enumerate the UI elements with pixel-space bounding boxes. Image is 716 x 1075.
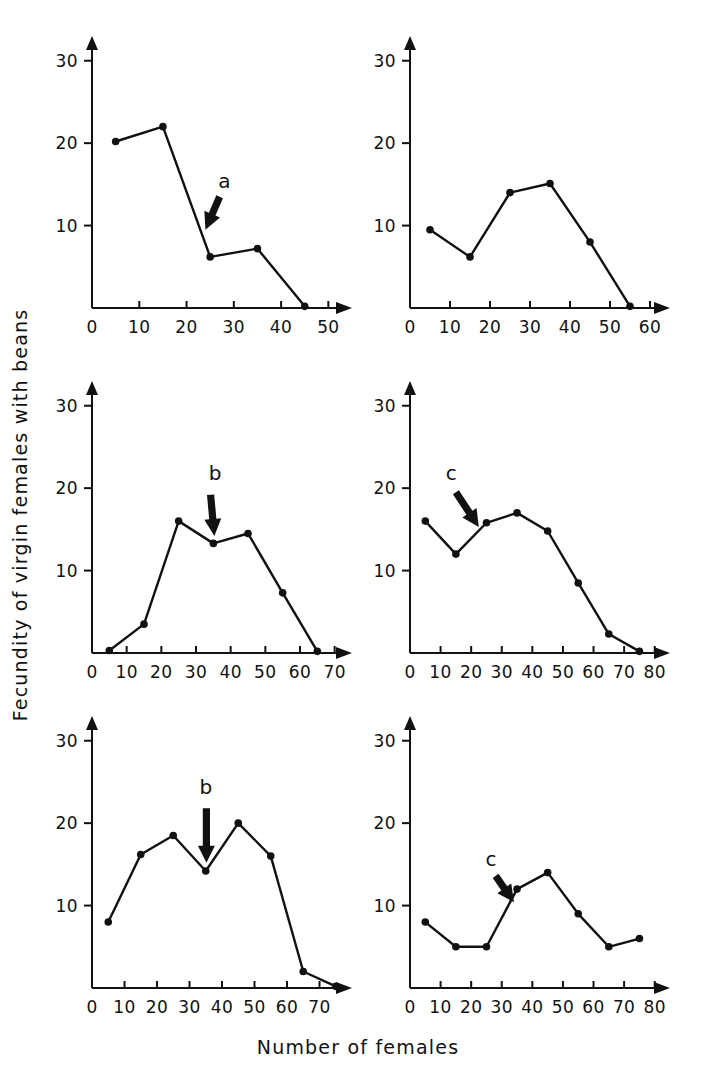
- data-point-marker: [210, 540, 218, 548]
- data-point-marker: [574, 579, 582, 587]
- y-axis-ticks: 102030: [56, 731, 92, 916]
- annotation-label: b: [199, 775, 212, 799]
- annotation-a: a: [204, 169, 230, 229]
- x-tick-label: 0: [86, 317, 97, 337]
- x-tick-label: 10: [429, 997, 451, 1017]
- x-tick-label: 70: [613, 662, 635, 682]
- annotation-c: c: [446, 461, 479, 527]
- x-tick-label: 20: [150, 662, 172, 682]
- data-point-marker: [636, 935, 644, 943]
- data-point-marker: [466, 253, 474, 261]
- x-axis-ticks: 01020304050607080: [404, 981, 666, 1017]
- x-axis-arrowhead-icon: [654, 982, 670, 994]
- data-point-marker: [112, 138, 120, 146]
- x-tick-label: 20: [175, 317, 197, 337]
- x-tick-label: 30: [491, 662, 513, 682]
- x-tick-label: 40: [270, 317, 292, 337]
- x-tick-label: 70: [323, 662, 345, 682]
- x-tick-label: 10: [113, 997, 135, 1017]
- y-tick-label: 10: [374, 561, 396, 581]
- annotation-label: b: [209, 461, 222, 485]
- x-tick-label: 30: [185, 662, 207, 682]
- y-tick-label: 30: [56, 51, 78, 71]
- x-tick-label: 10: [439, 317, 461, 337]
- y-axis-title: Fecundity of virgin females with beans: [0, 0, 40, 1030]
- x-tick-label: 30: [178, 997, 200, 1017]
- data-point-marker: [234, 819, 242, 827]
- annotation-arrow-icon: [204, 195, 223, 229]
- y-axis-arrowhead-icon: [404, 381, 416, 395]
- data-point-marker: [626, 303, 634, 311]
- x-axis-arrowhead-icon: [336, 302, 352, 314]
- data-point-marker: [544, 869, 552, 877]
- data-point-marker: [206, 253, 214, 261]
- annotation-b: b: [198, 775, 215, 862]
- x-tick-label: 70: [308, 997, 330, 1017]
- data-point-marker: [175, 517, 183, 525]
- data-point-marker: [254, 245, 262, 253]
- x-tick-label: 20: [479, 317, 501, 337]
- y-tick-label: 10: [56, 896, 78, 916]
- x-tick-label: 10: [128, 317, 150, 337]
- x-tick-label: 0: [86, 997, 97, 1017]
- x-axis-ticks: 01020304050607080: [404, 646, 666, 682]
- plot-area-top-right: 0102030405060102030: [358, 10, 688, 360]
- x-tick-label: 50: [552, 662, 574, 682]
- y-tick-label: 20: [374, 813, 396, 833]
- axes: [404, 716, 670, 994]
- plot-area-top-left: 01020304050102030a: [40, 10, 370, 360]
- data-point-marker: [299, 968, 307, 976]
- y-axis-ticks: 102030: [56, 396, 92, 581]
- x-tick-label: 40: [211, 997, 233, 1017]
- annotation-arrow-icon: [198, 808, 215, 862]
- x-tick-label: 60: [582, 997, 604, 1017]
- data-point-marker: [452, 943, 460, 951]
- data-point-marker: [301, 303, 309, 311]
- x-tick-label: 40: [521, 662, 543, 682]
- x-tick-label: 60: [639, 317, 661, 337]
- data-point-marker: [140, 620, 148, 628]
- y-tick-label: 20: [374, 478, 396, 498]
- annotation-b: b: [204, 461, 221, 536]
- annotation-arrow-icon: [453, 490, 479, 527]
- axes: [404, 381, 670, 659]
- axes: [86, 716, 352, 994]
- y-tick-label: 30: [374, 731, 396, 751]
- chart-panel-top-right: 0102030405060102030: [358, 10, 688, 360]
- x-tick-label: 40: [219, 662, 241, 682]
- annotation-arrow-icon: [493, 874, 514, 902]
- plot-area-bottom-right: 01020304050607080102030c: [358, 690, 688, 1040]
- x-tick-label: 30: [519, 317, 541, 337]
- y-tick-label: 10: [374, 896, 396, 916]
- y-axis-title-text: Fecundity of virgin females with beans: [9, 309, 31, 722]
- figure-root: Fecundity of virgin females with beans 0…: [0, 0, 716, 1075]
- y-tick-label: 20: [56, 478, 78, 498]
- data-point-marker: [244, 530, 252, 538]
- x-tick-label: 0: [404, 317, 415, 337]
- annotation-c: c: [486, 847, 514, 902]
- y-tick-label: 20: [374, 133, 396, 153]
- x-tick-label: 0: [404, 997, 415, 1017]
- data-point-marker: [159, 123, 167, 131]
- y-tick-label: 30: [374, 396, 396, 416]
- y-tick-label: 20: [56, 813, 78, 833]
- axes: [404, 36, 670, 314]
- x-axis-title: Number of females: [0, 1036, 716, 1058]
- data-point-marker: [104, 918, 112, 926]
- chart-panel-bottom-right: 01020304050607080102030c: [358, 690, 688, 1040]
- y-axis-arrowhead-icon: [404, 716, 416, 730]
- y-axis-arrowhead-icon: [86, 36, 98, 50]
- x-tick-label: 20: [460, 997, 482, 1017]
- annotation-arrow-icon: [204, 494, 221, 536]
- data-point-marker: [421, 517, 429, 525]
- data-point-marker: [605, 943, 613, 951]
- x-tick-label: 80: [643, 662, 665, 682]
- y-axis-ticks: 102030: [374, 396, 410, 581]
- data-point-marker: [106, 647, 114, 655]
- x-tick-label: 50: [317, 317, 339, 337]
- x-tick-label: 40: [521, 997, 543, 1017]
- y-tick-label: 10: [374, 216, 396, 236]
- x-tick-label: 20: [146, 997, 168, 1017]
- y-axis-ticks: 102030: [56, 51, 92, 236]
- plot-area-bottom-left: 010203040506070102030b: [40, 690, 370, 1040]
